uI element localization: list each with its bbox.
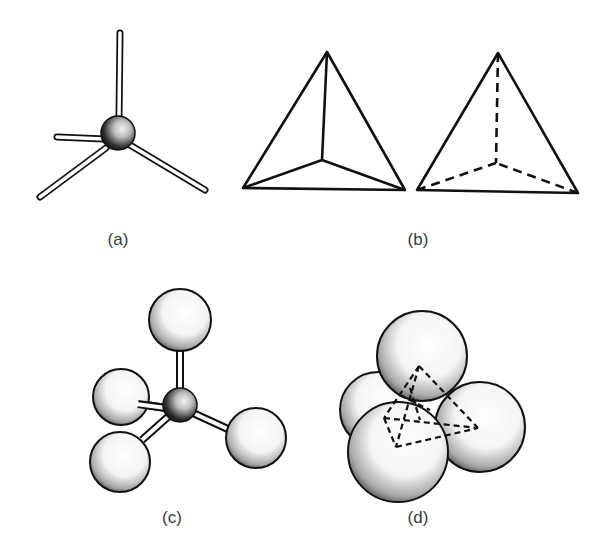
panel-label-a: (a)	[108, 230, 129, 250]
panel-c	[90, 289, 286, 492]
panel-d	[340, 311, 525, 502]
bond-left-overlay	[136, 404, 166, 408]
figure-canvas	[0, 0, 612, 555]
sphere-front	[348, 402, 448, 502]
bond-right	[193, 413, 230, 430]
ball-left	[93, 369, 149, 425]
panel-label-c: (c)	[162, 508, 182, 528]
rod-lower-right	[130, 145, 205, 190]
rod-up	[119, 33, 120, 118]
panel-b	[243, 52, 578, 193]
tetrahedron-solid	[243, 52, 405, 190]
ball-right	[226, 408, 286, 468]
tetrahedron-dashed	[417, 53, 578, 193]
panel-label-d: (d)	[408, 508, 429, 528]
panel-a	[40, 33, 205, 197]
ball-top	[149, 289, 211, 351]
central-atom	[101, 116, 135, 150]
central-atom-c	[163, 388, 197, 422]
ball-lower-left	[90, 432, 150, 492]
bond-lower-left	[142, 415, 170, 440]
panel-label-b: (b)	[408, 230, 429, 250]
sphere-top	[377, 311, 467, 401]
rod-lower-left	[40, 148, 106, 197]
rod-left	[57, 137, 104, 139]
